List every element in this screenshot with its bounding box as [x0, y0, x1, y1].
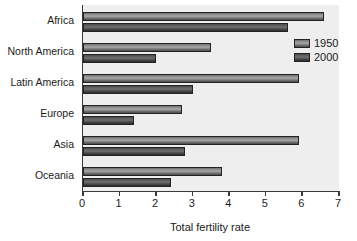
tick-mark-6	[301, 191, 303, 196]
category-label-asia: Asia	[0, 139, 74, 150]
tick-label-5: 5	[253, 197, 277, 209]
tick-mark-2	[155, 191, 157, 196]
legend-item-1950: 1950	[294, 37, 354, 50]
category-label-europe: Europe	[0, 108, 74, 119]
bar-africa-1950	[83, 12, 324, 21]
tick-label-7: 7	[326, 197, 350, 209]
bar-oceania-1950	[83, 167, 222, 176]
legend-swatch-1950	[294, 39, 310, 48]
bars-layer	[83, 5, 339, 191]
bar-europe-1950	[83, 105, 182, 114]
tick-label-2: 2	[143, 197, 167, 209]
category-axis-labels: AfricaNorth AmericaLatin AmericaEuropeAs…	[0, 5, 78, 191]
bar-oceania-2000	[83, 178, 171, 187]
bar-europe-2000	[83, 116, 134, 125]
tick-label-1: 1	[107, 197, 131, 209]
bar-latin-america-1950	[83, 74, 299, 83]
bar-latin-america-2000	[83, 85, 193, 94]
tick-mark-1	[119, 191, 121, 196]
category-label-oceania: Oceania	[0, 170, 74, 181]
plot-area	[82, 5, 339, 192]
x-axis-title: Total fertility rate	[82, 221, 338, 233]
category-label-africa: Africa	[0, 15, 74, 26]
bar-asia-2000	[83, 147, 185, 156]
value-axis-ticks: 01234567	[82, 191, 340, 217]
chart-legend: 19502000	[294, 37, 354, 65]
legend-label-2000: 2000	[314, 52, 338, 63]
tick-mark-3	[192, 191, 194, 196]
category-label-latin-america: Latin America	[0, 77, 74, 88]
legend-swatch-2000	[294, 53, 310, 62]
legend-label-1950: 1950	[314, 38, 338, 49]
tick-mark-5	[265, 191, 267, 196]
tick-label-4: 4	[216, 197, 240, 209]
tick-label-6: 6	[289, 197, 313, 209]
fertility-rate-bar-chart: AfricaNorth AmericaLatin AmericaEuropeAs…	[0, 0, 357, 241]
tick-mark-7	[338, 191, 340, 196]
tick-label-0: 0	[70, 197, 94, 209]
legend-item-2000: 2000	[294, 51, 354, 64]
bar-north-america-2000	[83, 54, 156, 63]
bar-asia-1950	[83, 136, 299, 145]
bar-north-america-1950	[83, 43, 211, 52]
tick-mark-4	[228, 191, 230, 196]
tick-mark-0	[82, 191, 84, 196]
tick-label-3: 3	[180, 197, 204, 209]
category-label-north-america: North America	[0, 46, 74, 57]
bar-africa-2000	[83, 23, 288, 32]
